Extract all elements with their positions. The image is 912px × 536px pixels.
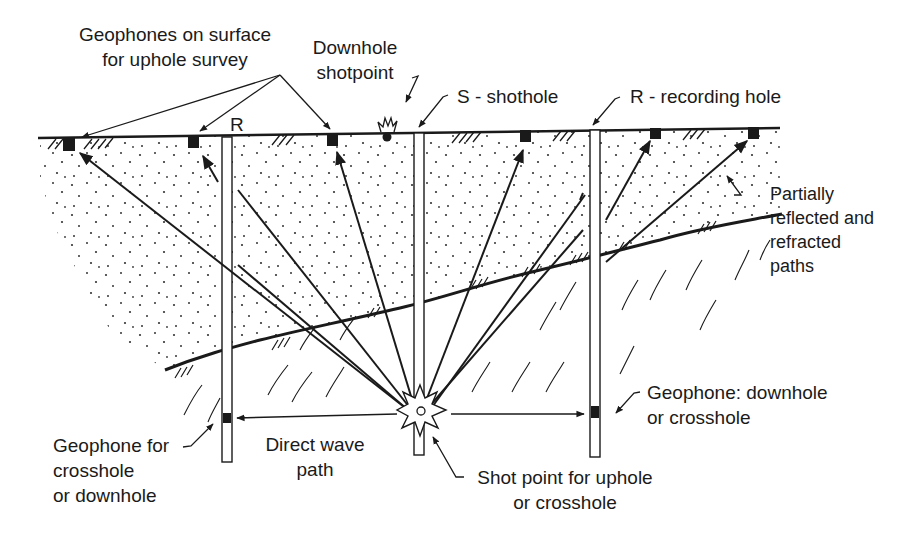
- label-recording-hole: R - recording hole: [630, 84, 781, 109]
- label-shot-point: Shot point for uphole or crosshole: [465, 465, 665, 515]
- label-partial-paths: Partially reflected and refracted paths: [770, 182, 874, 278]
- label-line: or crosshole: [465, 490, 665, 515]
- label-line: paths: [770, 254, 874, 278]
- label-line: Partially: [770, 182, 874, 206]
- upper-sediment-layer: [30, 128, 790, 388]
- geophone-2-icon: [188, 136, 199, 148]
- label-line: or crosshole: [647, 405, 828, 430]
- label-line: Geophone: downhole: [647, 380, 828, 405]
- label-line: Downhole: [310, 35, 400, 60]
- label-line: refracted: [770, 230, 874, 254]
- label-direct-wave: Direct wave path: [255, 432, 375, 482]
- label-geophone-downhole: Geophone: downhole or crosshole: [647, 380, 828, 430]
- label-downhole-shotpoint: Downhole shotpoint: [310, 35, 400, 85]
- label-line: shotpoint: [310, 60, 400, 85]
- label-line: for uphole survey: [70, 47, 280, 72]
- geophone-3-icon: [327, 134, 338, 146]
- geophone-6-icon: [748, 127, 759, 139]
- geophone-5-icon: [650, 128, 661, 139]
- downhole-geophone-left-icon: [223, 413, 231, 423]
- label-line: Direct wave: [255, 432, 375, 457]
- label-line: crosshole: [53, 458, 169, 483]
- label-line: path: [255, 457, 375, 482]
- label-geophone-crosshole: Geophone for crosshole or downhole: [53, 433, 169, 508]
- label-line: Geophones on surface: [70, 22, 280, 47]
- downhole-geophone-right-icon: [591, 406, 599, 418]
- label-r-marker: R: [230, 112, 244, 137]
- shot-point-star-icon: [397, 385, 446, 436]
- label-line: Shot point for uphole: [465, 465, 665, 490]
- label-shothole: S - shothole: [457, 84, 558, 109]
- label-surface-geophones: Geophones on surface for uphole survey: [70, 22, 280, 72]
- label-line: reflected and: [770, 206, 874, 230]
- label-line: Geophone for: [53, 433, 169, 458]
- geophone-4-icon: [520, 130, 531, 142]
- label-line: or downhole: [53, 483, 169, 508]
- geophone-1-icon: [63, 138, 75, 151]
